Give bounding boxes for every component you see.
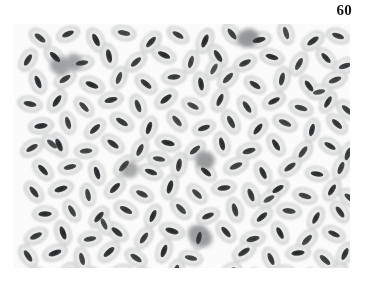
figure-plate: 60 [0, 0, 365, 283]
micrograph-panel [14, 24, 350, 268]
blood-smear-micrograph [14, 24, 350, 268]
figure-number-label: 60 [337, 2, 352, 18]
